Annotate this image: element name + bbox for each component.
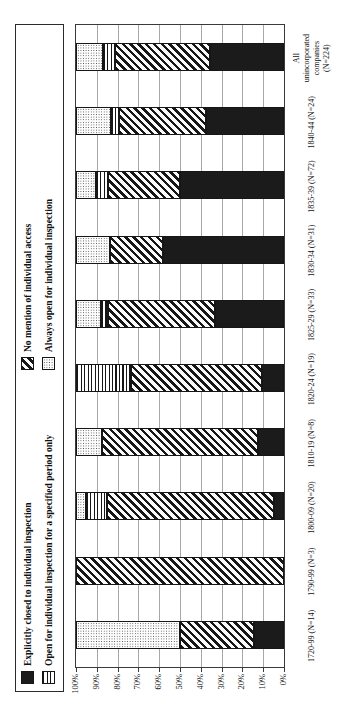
x-axis-label: 1840-44 (N=24) bbox=[289, 93, 335, 151]
segment-solid-black bbox=[254, 621, 284, 649]
y-axis-label: 90% bbox=[91, 674, 101, 708]
bar-1840-44 bbox=[76, 107, 284, 135]
segment-diagonal-hatch bbox=[119, 107, 206, 135]
segment-solid-black bbox=[262, 364, 284, 392]
segment-horizontal-lines bbox=[76, 364, 131, 392]
bar-1800-09 bbox=[76, 493, 284, 521]
bar-1820-24 bbox=[76, 364, 284, 392]
segment-diagonal-hatch bbox=[76, 557, 284, 585]
axis-tick bbox=[222, 668, 223, 672]
legend: Explicitly closed to individual inspecti… bbox=[15, 24, 64, 692]
segment-fine-dots bbox=[76, 236, 109, 264]
segment-fine-dots bbox=[76, 493, 86, 521]
segment-solid-black bbox=[215, 300, 284, 328]
axis-tick bbox=[97, 668, 98, 672]
segment-fine-dots bbox=[76, 107, 111, 135]
x-axis-label: 1810-19 (N=8) bbox=[289, 414, 335, 472]
y-axis-label: 0% bbox=[278, 674, 288, 708]
rotated-chart-canvas: Explicitly closed to individual inspecti… bbox=[0, 0, 340, 723]
axis-tick bbox=[201, 668, 202, 672]
segment-solid-black bbox=[180, 172, 284, 200]
x-axis-label: 1830-34 (N=31) bbox=[289, 222, 335, 280]
plot-area bbox=[75, 24, 285, 668]
hatched-swatch-icon bbox=[21, 357, 34, 370]
axis-tick bbox=[242, 668, 243, 672]
segment-solid-black bbox=[210, 43, 284, 71]
bar-all bbox=[76, 43, 284, 71]
segment-solid-black bbox=[258, 428, 284, 456]
segment-horizontal-lines bbox=[96, 172, 108, 200]
segment-diagonal-hatch bbox=[115, 43, 210, 71]
legend-label: No mention of individual access bbox=[23, 224, 33, 352]
x-axis-label: 1790-99 (N=3) bbox=[289, 543, 335, 601]
segment-diagonal-hatch bbox=[108, 172, 180, 200]
y-axis-label: 80% bbox=[112, 674, 122, 708]
segment-horizontal-lines bbox=[103, 43, 115, 71]
y-axis-label: 50% bbox=[174, 674, 184, 708]
segment-diagonal-hatch bbox=[131, 364, 262, 392]
y-axis-label: 40% bbox=[195, 674, 205, 708]
axis-tick bbox=[180, 668, 181, 672]
y-axis-label: 30% bbox=[216, 674, 226, 708]
bar-1720-99 bbox=[76, 621, 284, 649]
x-axis-label: All unincorporated companies (N=224) bbox=[289, 29, 335, 87]
legend-label: Explicitly closed to individual inspecti… bbox=[23, 502, 33, 666]
segment-diagonal-hatch bbox=[107, 493, 273, 521]
legend-label: Open for individual inspection for a spe… bbox=[44, 435, 54, 666]
segment-fine-dots bbox=[76, 428, 102, 456]
segment-solid-black bbox=[163, 236, 284, 264]
y-axis-label: 100% bbox=[70, 674, 80, 708]
segment-diagonal-hatch bbox=[110, 236, 164, 264]
axis-tick bbox=[138, 668, 139, 672]
segment-diagonal-hatch bbox=[102, 428, 258, 456]
bar-1825-29 bbox=[76, 300, 284, 328]
axis-tick bbox=[76, 668, 77, 672]
axis-tick bbox=[159, 668, 160, 672]
bar-1790-99 bbox=[76, 557, 284, 585]
segment-diagonal-hatch bbox=[108, 300, 215, 328]
legend-item-specified-period: Open for individual inspection for a spe… bbox=[42, 435, 55, 684]
lined-swatch-icon bbox=[42, 671, 55, 684]
segment-fine-dots bbox=[76, 172, 96, 200]
x-axis-label: 1720-99 (N=14) bbox=[289, 607, 335, 665]
x-axis-label: 1800-09 (N=20) bbox=[289, 479, 335, 537]
segment-horizontal-lines bbox=[86, 493, 107, 521]
solid-black-swatch-icon bbox=[21, 671, 34, 684]
y-axis-label: 20% bbox=[236, 674, 246, 708]
legend-item-explicitly-closed: Explicitly closed to individual inspecti… bbox=[21, 502, 34, 684]
segment-fine-dots bbox=[76, 300, 101, 328]
dotted-swatch-icon bbox=[42, 357, 55, 370]
segment-solid-black bbox=[206, 107, 284, 135]
y-axis-label: 60% bbox=[153, 674, 163, 708]
bar-1835-39 bbox=[76, 172, 284, 200]
segment-fine-dots bbox=[76, 43, 103, 71]
segment-fine-dots bbox=[76, 621, 180, 649]
axis-tick bbox=[263, 668, 264, 672]
y-axis-label: 70% bbox=[132, 674, 142, 708]
legend-item-always-open: Always open for individual inspection bbox=[42, 199, 55, 370]
chart-image: Explicitly closed to individual inspecti… bbox=[0, 0, 340, 723]
bar-1830-34 bbox=[76, 236, 284, 264]
legend-item-no-mention: No mention of individual access bbox=[21, 224, 34, 370]
x-axis-label: 1825-29 (N=33) bbox=[289, 286, 335, 344]
axis-tick bbox=[118, 668, 119, 672]
x-axis-label: 1835-39 (N=72) bbox=[289, 158, 335, 216]
axis-tick bbox=[284, 668, 285, 672]
legend-label: Always open for individual inspection bbox=[44, 199, 54, 352]
y-axis-label: 10% bbox=[257, 674, 267, 708]
bar-1810-19 bbox=[76, 428, 284, 456]
segment-solid-black bbox=[274, 493, 284, 521]
x-axis-label: 1820-24 (N=19) bbox=[289, 350, 335, 408]
segment-horizontal-lines bbox=[111, 107, 120, 135]
segment-diagonal-hatch bbox=[180, 621, 254, 649]
